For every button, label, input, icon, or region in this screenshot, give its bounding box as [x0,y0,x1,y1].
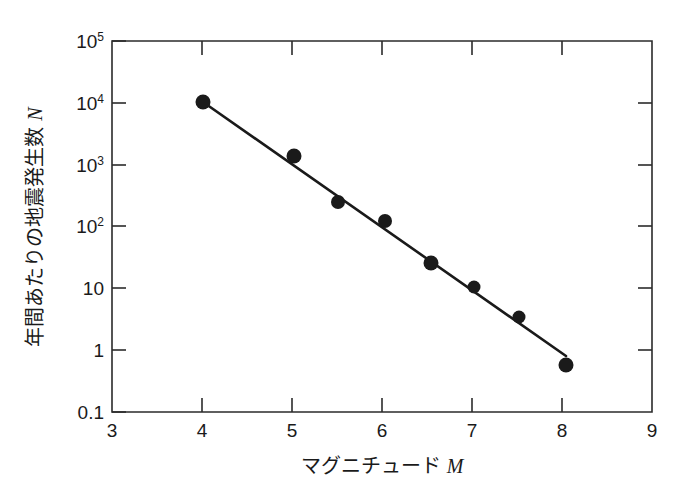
y-ticklabel-1: 1 [93,340,104,361]
y-axis-tick-labels: 105 104 103 102 10 1 0.1 [76,30,104,423]
y-ticklabel-1e2: 102 [76,215,104,237]
data-point [331,195,345,209]
data-point [287,149,302,164]
y-ticklabel-1e4: 104 [76,92,104,114]
x-ticklabel-9: 9 [647,420,658,441]
data-point [196,95,211,110]
earthquake-magnitude-frequency-chart: 105 104 103 102 10 1 0.1 3 4 5 6 7 8 9 マ… [0,0,688,490]
x-ticklabel-3: 3 [107,420,118,441]
x-axis-tick-labels: 3 4 5 6 7 8 9 [107,420,658,441]
x-ticklabel-5: 5 [287,420,298,441]
x-ticklabel-7: 7 [467,420,478,441]
x-ticklabel-6: 6 [377,420,388,441]
data-point [559,358,574,373]
x-ticklabel-4: 4 [197,420,208,441]
x-axis-title: マグニチュードM [301,454,465,478]
y-axis-title: 年間あたりの地震発生数N [23,106,47,347]
data-point [468,281,481,294]
chart-figure: 105 104 103 102 10 1 0.1 3 4 5 6 7 8 9 マ… [0,0,688,490]
y-ticklabel-10: 10 [83,278,104,299]
data-point [424,256,439,271]
data-point [513,311,526,324]
y-ticklabel-1e5: 105 [76,30,104,52]
data-point [378,214,392,228]
x-ticklabel-8: 8 [557,420,568,441]
y-ticklabel-0-1: 0.1 [78,402,104,423]
y-ticklabel-1e3: 103 [76,154,104,176]
